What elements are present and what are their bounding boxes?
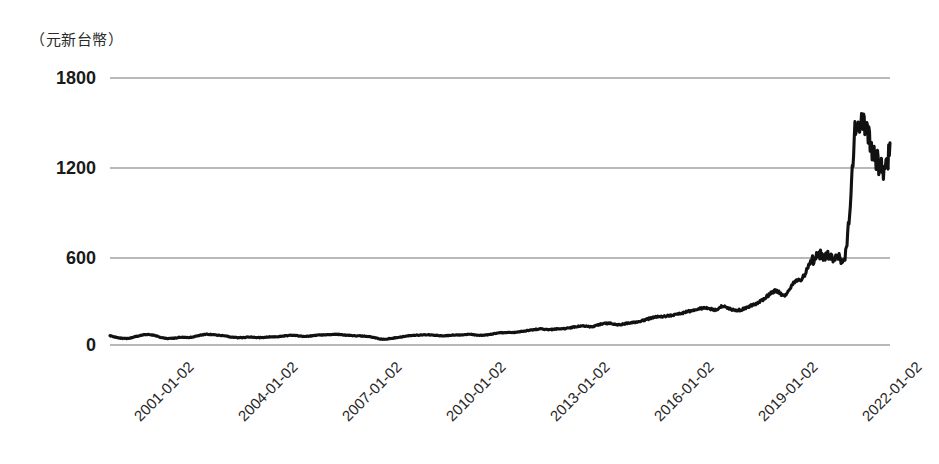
x-tick-label-2007: 2007-01-02 — [338, 358, 404, 424]
x-tick-label-2016: 2016-01-02 — [650, 358, 716, 424]
x-tick-label-2013: 2013-01-02 — [546, 358, 612, 424]
x-tick-label-2010: 2010-01-02 — [442, 358, 508, 424]
chart-container: （元新台幣） 1800 1200 600 0 2001-01-02 2004-0… — [0, 0, 939, 464]
x-tick-label-2001: 2001-01-02 — [130, 358, 196, 424]
x-tick-label-2019: 2019-01-02 — [754, 358, 820, 424]
x-axis-tick-labels: 2001-01-02 2004-01-02 2007-01-02 2010-01… — [0, 0, 939, 464]
x-tick-label-2004: 2004-01-02 — [234, 358, 300, 424]
x-tick-label-2022: 2022-01-02 — [858, 358, 924, 424]
